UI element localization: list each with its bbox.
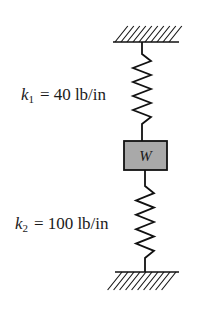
hatch-mark	[162, 272, 176, 290]
spring-k2-coil	[136, 170, 154, 272]
hatch-mark	[108, 272, 122, 290]
spring-k1-label: k1=40 lb/in	[21, 86, 106, 105]
spring-k1-equals: =	[40, 85, 50, 104]
bottom-support	[108, 272, 179, 290]
spring-k2-label: k2=100 lb/in	[15, 215, 109, 234]
hatch-mark	[133, 26, 146, 42]
hatch-mark	[163, 26, 176, 42]
hatch-mark	[145, 26, 158, 42]
top-support	[113, 26, 182, 42]
spring-k1-subscript: 1	[29, 93, 35, 105]
spring-mass-diagram: W	[0, 0, 197, 311]
hatch-mark	[121, 26, 134, 42]
hatch-mark	[144, 272, 158, 290]
hatch-mark	[156, 272, 170, 290]
spring-k1-value: 40 lb/in	[54, 85, 106, 104]
spring-k1-coil	[133, 42, 151, 141]
spring-k2-subscript: 2	[23, 222, 29, 234]
spring-k1-symbol: k	[21, 85, 29, 104]
hatch-mark	[132, 272, 146, 290]
hatch-mark	[127, 26, 140, 42]
hatch-mark	[114, 272, 128, 290]
bottom-ground-hatching	[108, 272, 176, 290]
spring-k2	[136, 170, 154, 272]
hatch-mark	[115, 26, 128, 42]
hatch-mark	[120, 272, 134, 290]
spring-k2-equals: =	[34, 214, 44, 233]
hatch-mark	[151, 26, 164, 42]
hatch-mark	[150, 272, 164, 290]
hatch-mark	[169, 26, 182, 42]
mass-block: W	[124, 141, 167, 170]
spring-k1	[133, 42, 151, 141]
top-ground-hatching	[115, 26, 182, 42]
spring-k2-symbol: k	[15, 214, 23, 233]
hatch-mark	[138, 272, 152, 290]
mass-label: W	[139, 148, 153, 164]
hatch-mark	[126, 272, 140, 290]
spring-k2-value: 100 lb/in	[48, 214, 109, 233]
hatch-mark	[157, 26, 170, 42]
hatch-mark	[139, 26, 152, 42]
